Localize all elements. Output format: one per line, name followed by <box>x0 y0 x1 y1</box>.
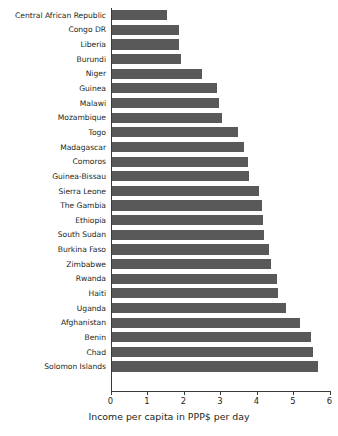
x-tick <box>330 391 331 395</box>
category-label: Guinea-Bissau <box>0 172 106 181</box>
bar-track <box>111 228 338 243</box>
bar-track <box>111 198 338 213</box>
category-label: Rwanda <box>0 274 106 283</box>
bar-track <box>111 81 338 96</box>
category-label: Chad <box>0 348 106 357</box>
bar <box>111 259 272 269</box>
x-tick <box>147 391 148 395</box>
bar-row: Uganda <box>0 301 338 316</box>
bar-track <box>111 272 338 287</box>
bar-track <box>111 169 338 184</box>
bar-row: The Gambia <box>0 198 338 213</box>
bar-row: Sierra Leone <box>0 184 338 199</box>
bar <box>111 98 219 108</box>
category-label: The Gambia <box>0 201 106 210</box>
category-label: Benin <box>0 333 106 342</box>
category-label: Guinea <box>0 84 106 93</box>
bar-row: Burundi <box>0 52 338 67</box>
bar-row: Togo <box>0 125 338 140</box>
bar <box>111 142 244 152</box>
bar <box>111 200 262 210</box>
x-tick-label: 4 <box>245 396 269 406</box>
category-label: Congo DR <box>0 25 106 34</box>
bar-row: Congo DR <box>0 23 338 38</box>
bar-row: Guinea <box>0 81 338 96</box>
category-label: Burkina Faso <box>0 245 106 254</box>
bar-row: Malawi <box>0 96 338 111</box>
bar <box>111 113 223 123</box>
bar-row: Solomon Islands <box>0 359 338 374</box>
x-tick <box>111 391 112 395</box>
bar-track <box>111 286 338 301</box>
bar-track <box>111 359 338 374</box>
bar <box>111 69 202 79</box>
chart-plot-area: Central African RepublicCongo DRLiberiaB… <box>0 8 338 374</box>
y-axis-line <box>111 8 112 391</box>
category-label: Mozambique <box>0 113 106 122</box>
bar <box>111 54 181 64</box>
bar <box>111 347 314 357</box>
bar-chart: Central African RepublicCongo DRLiberiaB… <box>0 0 338 436</box>
bar-row: Guinea-Bissau <box>0 169 338 184</box>
bar-row: Haiti <box>0 286 338 301</box>
bar-track <box>111 96 338 111</box>
x-tick-label: 3 <box>208 396 232 406</box>
bar-track <box>111 52 338 67</box>
x-tick-label: 5 <box>281 396 305 406</box>
bar-track <box>111 125 338 140</box>
category-label: South Sudan <box>0 230 106 239</box>
bar-row: Benin <box>0 330 338 345</box>
bar-track <box>111 184 338 199</box>
category-label: Sierra Leone <box>0 187 106 196</box>
bar <box>111 332 312 342</box>
bar-row: Niger <box>0 67 338 82</box>
bar-track <box>111 242 338 257</box>
bar-row: Chad <box>0 345 338 360</box>
category-label: Togo <box>0 128 106 137</box>
bar <box>111 10 167 20</box>
bar-row: Zimbabwe <box>0 257 338 272</box>
bar <box>111 244 270 254</box>
bar-row: Ethiopia <box>0 213 338 228</box>
bar-track <box>111 330 338 345</box>
category-label: Burundi <box>0 55 106 64</box>
bar-track <box>111 8 338 23</box>
category-label: Solomon Islands <box>0 362 106 371</box>
bar <box>111 288 279 298</box>
bar <box>111 215 264 225</box>
bar <box>111 83 218 93</box>
category-label: Zimbabwe <box>0 260 106 269</box>
x-tick <box>220 391 221 395</box>
bar <box>111 39 179 49</box>
x-tick-label: 6 <box>318 396 338 406</box>
bar-track <box>111 301 338 316</box>
bar-row: Afghanistan <box>0 315 338 330</box>
bar-track <box>111 67 338 82</box>
category-label: Niger <box>0 69 106 78</box>
bar <box>111 274 277 284</box>
bar-track <box>111 315 338 330</box>
bar-row: Liberia <box>0 37 338 52</box>
category-label: Malawi <box>0 99 106 108</box>
x-tick <box>184 391 185 395</box>
category-label: Ethiopia <box>0 216 106 225</box>
bar-track <box>111 154 338 169</box>
x-tick-label: 0 <box>99 396 123 406</box>
bar-track <box>111 37 338 52</box>
bar-row: Central African Republic <box>0 8 338 23</box>
bar <box>111 318 301 328</box>
bar <box>111 25 179 35</box>
x-tick <box>293 391 294 395</box>
bar-row: Madagascar <box>0 140 338 155</box>
x-tick <box>257 391 258 395</box>
bar-row: Comoros <box>0 154 338 169</box>
bar-row: Rwanda <box>0 272 338 287</box>
bar <box>111 127 239 137</box>
category-label: Liberia <box>0 40 106 49</box>
bar-track <box>111 345 338 360</box>
x-tick-label: 1 <box>135 396 159 406</box>
bar <box>111 157 249 167</box>
x-tick-label: 2 <box>172 396 196 406</box>
bar-track <box>111 213 338 228</box>
x-axis-title: Income per capita in PPP$ per day <box>0 411 338 422</box>
